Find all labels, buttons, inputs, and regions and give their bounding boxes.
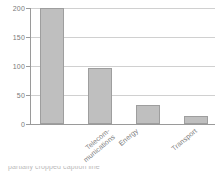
caption-strip: partially cropped caption line: [0, 166, 222, 174]
y-axis-line: [30, 8, 31, 125]
x-tick-label-telecommunications: Telecom- munications: [77, 127, 117, 164]
chart-figure: 200 150 100 50 0 Telecom- munications En…: [0, 0, 222, 174]
y-tick-mark-50: [26, 95, 30, 96]
plot-area: [30, 8, 215, 124]
bar-telecommunications: [40, 8, 64, 124]
caption-text: partially cropped caption line: [8, 166, 100, 171]
y-tick-label-0-wrap: 0: [0, 121, 25, 128]
y-tick-mark-150: [26, 37, 30, 38]
bar-energy: [88, 68, 112, 124]
y-tick-label-150: 150: [1, 34, 25, 41]
y-tick-label-200-wrap: 200: [0, 5, 25, 12]
y-tick-label-50-wrap: 50: [0, 92, 25, 99]
y-tick-label-0: 0: [1, 121, 25, 128]
x-axis-line: [30, 124, 215, 125]
y-tick-label-150-wrap: 150: [0, 34, 25, 41]
y-tick-mark-0: [26, 124, 30, 125]
x-tick-label-energy: Energy: [117, 127, 140, 148]
y-tick-label-50: 50: [1, 92, 25, 99]
y-tick-label-200: 200: [1, 5, 25, 12]
bar-transport: [136, 105, 160, 124]
y-tick-mark-200: [26, 8, 30, 9]
y-tick-mark-100: [26, 66, 30, 67]
x-tick-label-transport: Transport: [170, 127, 199, 153]
y-tick-label-100-wrap: 100: [0, 63, 25, 70]
y-tick-label-100: 100: [1, 63, 25, 70]
bar-water-sanitation: [184, 116, 208, 124]
